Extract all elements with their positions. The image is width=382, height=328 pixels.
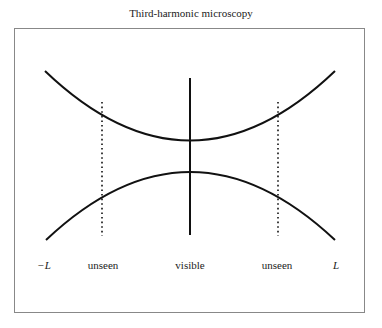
label-l: L: [333, 259, 339, 271]
beam-diagram: [0, 0, 382, 328]
label-visible: visible: [175, 259, 204, 271]
label-left-unseen: unseen: [88, 259, 119, 271]
label-right-unseen: unseen: [262, 259, 293, 271]
label-minus-l: −L: [37, 259, 51, 271]
